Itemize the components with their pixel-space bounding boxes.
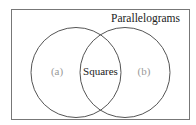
universe-label: Parallelograms — [111, 12, 181, 25]
set-a-label: (a) — [51, 65, 64, 78]
set-b-label: (b) — [138, 65, 151, 78]
intersection-label: Squares — [83, 65, 118, 77]
venn-diagram: Parallelograms (a) Squares (b) — [0, 0, 196, 125]
